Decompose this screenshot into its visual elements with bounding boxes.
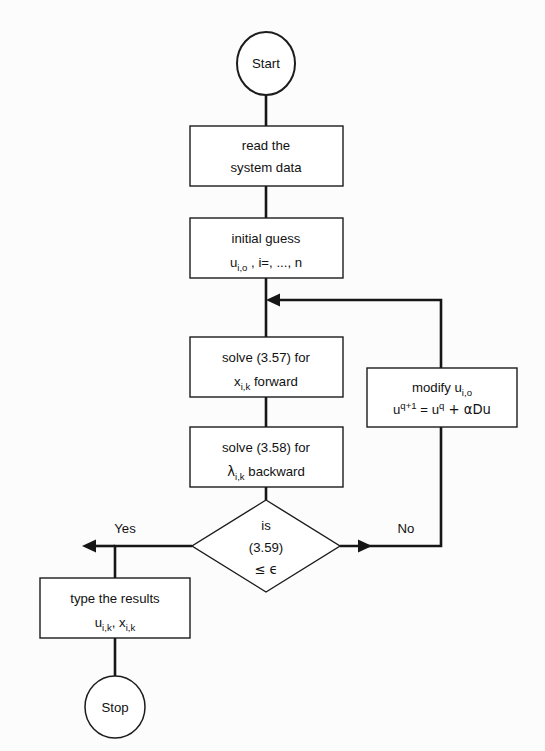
arrowhead-loop-merge — [266, 294, 280, 307]
node-decision: is (3.59) ≤ ϵ — [192, 500, 340, 592]
type-results-line1: type the results — [70, 591, 160, 606]
arrowhead-no-branch — [358, 540, 372, 553]
node-solve-backward: solve (3.58) for λi,k backward — [190, 427, 343, 487]
type-results-u: u — [95, 615, 102, 630]
initial-guess-line1: initial guess — [232, 231, 301, 246]
node-modify: modify ui,o uq+1 = uq + αDu — [367, 368, 517, 427]
modify-u: u — [393, 402, 400, 417]
type-results-x-sub: i,k — [126, 622, 136, 633]
solve-backward-sub: i,k — [235, 471, 245, 482]
stop-label: Stop — [101, 700, 128, 715]
read-data-line2: system data — [230, 160, 302, 175]
solve-forward-rest: forward — [250, 374, 298, 389]
flowchart-diagram: Start read the system data initial guess… — [0, 0, 545, 751]
modify-sub: i,o — [462, 387, 472, 398]
start-label: Start — [252, 56, 280, 71]
modify-eq: = u — [417, 402, 439, 417]
initial-guess-u-sub: i,o — [237, 262, 247, 273]
yes-branch-label: Yes — [114, 521, 136, 536]
modify-text: modify u — [412, 380, 462, 395]
node-solve-forward: solve (3.57) for xi,k forward — [190, 337, 343, 397]
read-data-line1: read the — [242, 138, 290, 153]
no-branch-label: No — [398, 521, 415, 536]
modify-box — [367, 368, 517, 427]
node-initial-guess: initial guess ui,o , i=, ..., n — [190, 218, 343, 278]
solve-forward-sub: i,k — [241, 381, 251, 392]
node-read-data: read the system data — [190, 126, 343, 186]
solve-forward-line1: solve (3.57) for — [222, 350, 311, 365]
node-stop: Stop — [85, 676, 145, 738]
modify-sup: q+1 — [400, 400, 416, 411]
modify-tail: + αDu — [444, 402, 491, 417]
node-type-results: type the results ui,k, xi,k — [40, 578, 190, 638]
type-results-u-sub: i,k — [102, 622, 112, 633]
node-start: Start — [237, 32, 295, 95]
decision-line2: (3.59) — [249, 540, 283, 555]
read-data-box — [190, 126, 343, 186]
initial-guess-u: u — [230, 255, 237, 270]
initial-guess-rest: , i=, ..., n — [247, 255, 302, 270]
solve-backward-var: λ — [227, 464, 235, 479]
type-results-mid: , x — [112, 615, 126, 630]
decision-line1: is — [261, 518, 271, 533]
solve-backward-line1: solve (3.58) for — [222, 440, 311, 455]
connector-yes-branch — [115, 546, 192, 578]
solve-backward-rest: backward — [245, 464, 305, 479]
decision-line3: ≤ ϵ — [254, 562, 277, 577]
